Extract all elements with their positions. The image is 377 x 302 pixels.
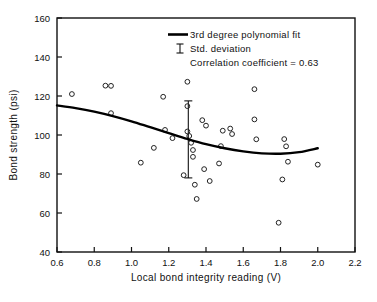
x-axis-title: Local bond integrity reading (V) [131, 272, 281, 283]
x-tick-label: 0.8 [88, 257, 101, 268]
legend-label-correlation: Correlation coefficient = 0.63 [190, 57, 319, 68]
y-tick-label: 60 [39, 208, 50, 219]
y-tick-label: 160 [34, 13, 50, 24]
x-tick-label: 0.6 [50, 257, 63, 268]
legend-label-stddev: Std. deviation [190, 43, 251, 54]
x-axis-tick-labels: 0.60.81.01.21.41.61.82.02.2 [50, 257, 361, 268]
x-tick-label: 1.0 [125, 257, 138, 268]
x-tick-label: 2.0 [311, 257, 324, 268]
bond-strength-scatter-chart: 0.60.81.01.21.41.61.82.02.2 406080100120… [0, 0, 377, 302]
y-axis-title: Bond strength (psi) [8, 89, 19, 180]
x-tick-label: 1.8 [274, 257, 287, 268]
y-tick-label: 100 [34, 130, 50, 141]
x-tick-label: 1.6 [237, 257, 250, 268]
y-tick-label: 140 [34, 52, 50, 63]
y-tick-label: 40 [39, 247, 50, 258]
x-tick-label: 1.2 [162, 257, 175, 268]
legend-label-fit: 3rd degree polynomial fit [190, 29, 300, 40]
y-tick-label: 80 [39, 169, 50, 180]
x-tick-label: 2.2 [348, 257, 361, 268]
x-tick-label: 1.4 [199, 257, 212, 268]
y-tick-label: 120 [34, 91, 50, 102]
